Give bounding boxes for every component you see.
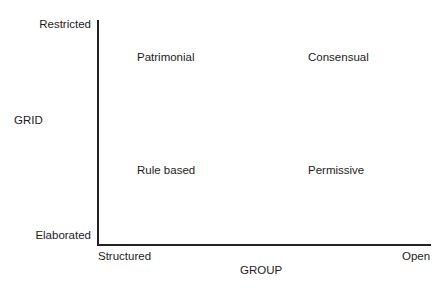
y-axis-top-label: Restricted xyxy=(39,18,91,31)
quadrant-top-left: Patrimonial xyxy=(137,51,195,64)
y-axis-line xyxy=(97,20,99,246)
x-axis-right-label: Open xyxy=(402,250,430,263)
x-axis-line xyxy=(97,244,431,246)
y-axis-title: GRID xyxy=(14,114,43,127)
x-axis-title: GROUP xyxy=(240,264,282,277)
quadrant-bottom-right: Permissive xyxy=(308,164,364,177)
quadrant-top-right: Consensual xyxy=(308,51,369,64)
grid-group-diagram: Restricted GRID Elaborated Structured GR… xyxy=(0,0,444,292)
quadrant-bottom-left: Rule based xyxy=(137,164,195,177)
y-axis-bottom-label: Elaborated xyxy=(35,229,91,242)
x-axis-left-label: Structured xyxy=(98,250,151,263)
